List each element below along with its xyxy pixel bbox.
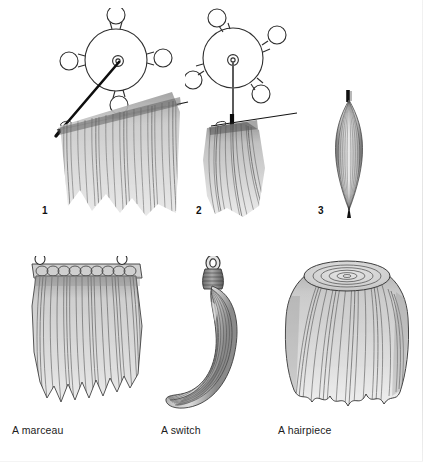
weaving-wheel-graphic [185,9,286,103]
marceau-hair [32,276,142,403]
figure-2-weaving-wheel-upright [185,8,310,220]
figure-2-number: 2 [196,205,202,216]
switch-hair [166,286,237,408]
item-marceau-label: A marceau [12,424,64,436]
item-hairpiece-label: A hairpiece [278,424,332,436]
figure-1-number: 1 [42,205,48,216]
figure-3-hair-bundle [316,88,382,220]
item-switch-label: A switch [161,424,201,436]
hair-fall-2 [203,120,265,217]
marceau-corner-loops [35,256,127,265]
illustration-plate: 1 [0,0,423,462]
figure-1-weaving-wheel-angled [40,8,200,220]
marceau-weft-band [32,256,142,278]
figure-3-number: 3 [318,205,324,216]
item-switch-graphic [162,256,272,416]
item-marceau-graphic [18,256,154,416]
hairpiece-crown [304,261,390,291]
item-hairpiece-graphic [278,256,416,416]
